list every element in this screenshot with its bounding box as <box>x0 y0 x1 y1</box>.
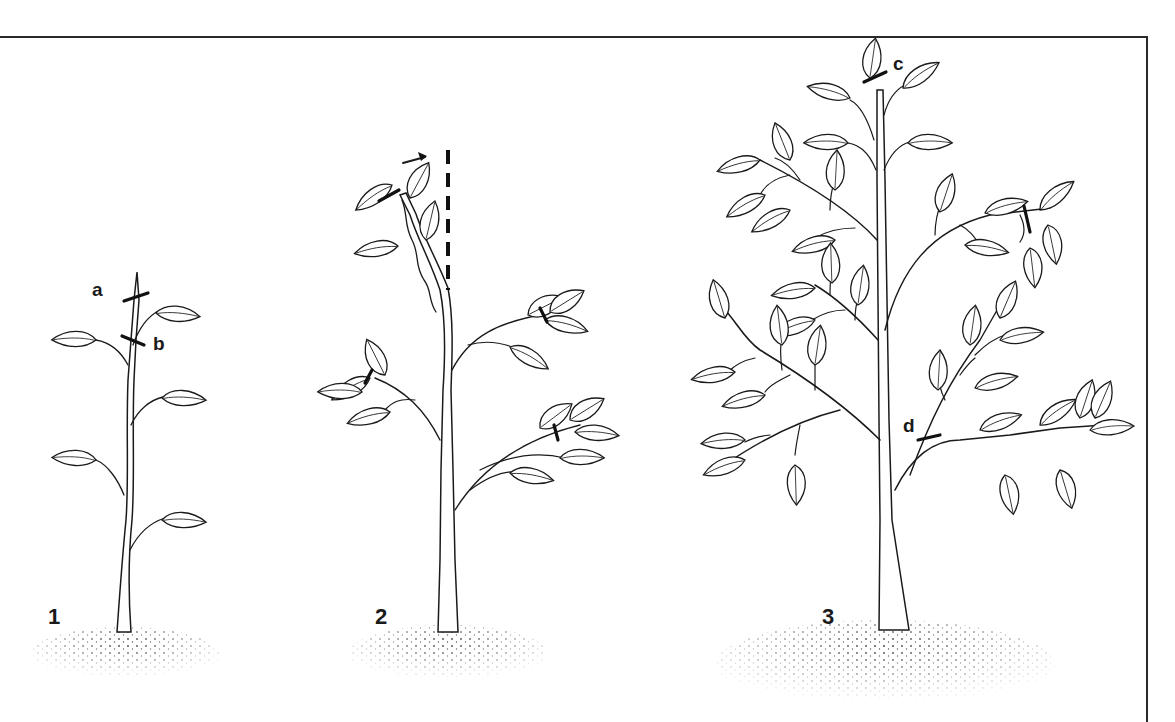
stage-2-plant <box>317 150 620 686</box>
stage-number-1: 1 <box>48 606 60 628</box>
pruning-illustration <box>0 0 1175 722</box>
stage-number-2: 2 <box>375 606 387 628</box>
cut-label-b: b <box>153 334 165 353</box>
cut-label-d: d <box>903 416 915 435</box>
cut-mark-d <box>918 435 940 440</box>
cut-label-c: c <box>893 54 904 73</box>
stage-number-3: 3 <box>822 606 834 628</box>
stage-3-plant <box>690 37 1134 712</box>
cut-label-a: a <box>92 280 103 299</box>
